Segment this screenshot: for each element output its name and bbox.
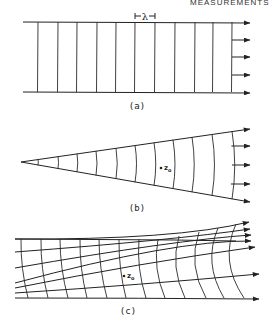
spherical-wavefront — [116, 148, 117, 179]
spherical-wavefront — [96, 151, 97, 176]
plane-wavefront — [232, 22, 233, 92]
plane-wavefront — [77, 22, 78, 92]
wavefront-curve — [80, 239, 87, 298]
spherical-wavefront — [135, 145, 136, 182]
upper-boundary-ext — [175, 240, 236, 241]
point-label-zo: zo — [164, 164, 172, 173]
plane-wavefront — [58, 22, 59, 92]
ray-path — [15, 298, 259, 299]
panel-c-label: (c) — [120, 306, 136, 316]
wavefront-curve — [156, 239, 165, 298]
plane-wavefront — [135, 22, 136, 92]
plane-wavefront — [195, 22, 196, 92]
spherical-wavefront — [154, 143, 156, 186]
wavefront-curve — [41, 239, 48, 298]
wavefront-curve — [229, 224, 244, 298]
wave-propagation-figure: MEASUREMENTS zo zo (a) (b) (c) λ — [0, 0, 273, 328]
upper-boundary — [15, 239, 175, 240]
clipped-header-text: MEASUREMENTS — [190, 0, 270, 7]
point-label-zo: zo — [127, 272, 135, 281]
panel-b-label: (b) — [129, 203, 145, 213]
boundary-ray-bottom — [23, 92, 250, 93]
source-point-zo — [123, 275, 126, 278]
panel-a-label: (a) — [129, 101, 145, 111]
plane-wavefront — [155, 22, 156, 92]
plane-wavefront — [97, 22, 98, 92]
spherical-wavefront — [173, 140, 175, 189]
plane-wavefront — [116, 22, 117, 92]
boundary-ray-bottom — [21, 162, 250, 202]
panel-a-plane-waves — [23, 13, 250, 93]
ray-path — [15, 247, 255, 288]
spherical-wavefront — [192, 137, 194, 192]
boundary-ray-top — [21, 129, 250, 162]
plane-wavefront — [213, 22, 214, 92]
ray-path — [15, 222, 249, 239]
point-label-subscript: o — [131, 275, 135, 281]
source-point-zo — [160, 167, 163, 170]
plane-wavefront — [38, 22, 39, 92]
wavefront-curve — [21, 239, 28, 298]
wavefront-curve — [195, 232, 206, 298]
spherical-wavefront — [58, 156, 59, 168]
plane-wavefront — [175, 22, 176, 92]
wavefront-curve — [176, 236, 185, 298]
ray-path — [15, 274, 259, 293]
panel-b-spherical-waves: zo — [21, 129, 250, 202]
wavefront-curve — [99, 239, 107, 298]
boundary-ray-top — [23, 22, 250, 23]
wavelength-symbol: λ — [142, 11, 149, 22]
spherical-wavefront — [77, 154, 78, 172]
point-label-subscript: o — [168, 167, 172, 173]
spherical-wavefront — [212, 134, 214, 196]
panel-c-focusing-rays: zo — [15, 222, 259, 299]
